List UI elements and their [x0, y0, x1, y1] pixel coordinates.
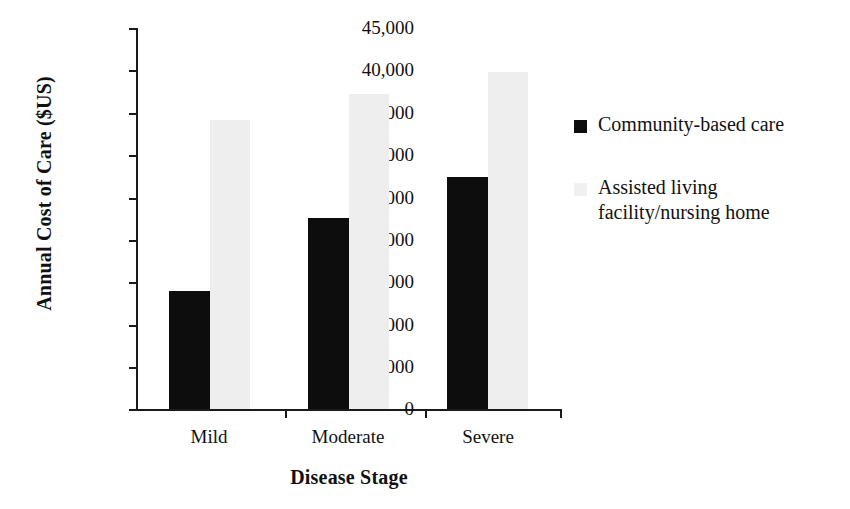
- y-tick-label: 45,000: [324, 18, 414, 37]
- y-axis-line: [136, 28, 138, 411]
- y-tick-label: 40,000: [324, 60, 414, 79]
- y-tick-mark: [129, 367, 137, 369]
- x-tick-mark: [425, 409, 427, 418]
- y-tick-mark: [129, 240, 137, 242]
- legend-label-assisted-living: Assisted living facility/nursing home: [598, 175, 846, 225]
- bar-chart-figure: Annual Cost of Care ($US) 45,000 40,000 …: [0, 0, 850, 509]
- light-gray-square-swatch-icon: [574, 183, 587, 196]
- y-tick-mark: [129, 325, 137, 327]
- legend-entry-community-based-care: Community-based care: [574, 112, 846, 137]
- bar-community-severe: [447, 177, 488, 409]
- y-tick-mark: [129, 409, 137, 411]
- bar-assisted-moderate: [349, 94, 389, 409]
- bar-community-mild: [169, 291, 210, 409]
- x-category-label-severe: Severe: [418, 426, 558, 448]
- y-tick-mark: [129, 70, 137, 72]
- plot-area: 45,000 40,000 35,000 30,000 25,000 20,00…: [136, 28, 562, 410]
- black-square-swatch-icon: [574, 120, 587, 133]
- chart-legend: Community-based care Assisted living fac…: [574, 112, 846, 225]
- x-category-label-moderate: Moderate: [278, 426, 418, 448]
- x-tick-mark: [285, 409, 287, 418]
- x-category-label-mild: Mild: [139, 426, 279, 448]
- y-tick-mark: [129, 198, 137, 200]
- legend-entry-assisted-living: Assisted living facility/nursing home: [574, 175, 846, 225]
- y-tick-mark: [129, 155, 137, 157]
- x-tick-mark: [560, 409, 562, 418]
- y-tick-mark: [129, 282, 137, 284]
- y-tick-mark: [129, 113, 137, 115]
- y-axis-title: Annual Cost of Care ($US): [33, 34, 56, 354]
- bar-assisted-severe: [488, 72, 528, 409]
- bar-assisted-mild: [210, 120, 250, 409]
- bar-community-moderate: [308, 218, 349, 409]
- legend-label-community-based-care: Community-based care: [598, 112, 846, 137]
- y-tick-mark: [129, 28, 137, 30]
- x-axis-title: Disease Stage: [136, 466, 562, 489]
